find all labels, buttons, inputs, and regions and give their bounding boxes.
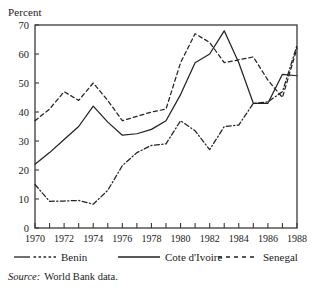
line-chart-plot: 010203040506070 197019721974197619781980… <box>0 0 316 249</box>
x-tick-label: 1980 <box>171 233 191 244</box>
y-tick-label: 30 <box>19 136 30 147</box>
x-tick-label: 1976 <box>112 233 132 244</box>
source-prefix: Source: <box>8 271 40 282</box>
series-line-senegal <box>35 34 297 121</box>
chart-legend: Benin Cote d'Ivoire Senegal <box>0 249 316 271</box>
y-tick-label: 50 <box>19 78 30 89</box>
legend-item-benin: Benin <box>14 249 87 265</box>
x-tick-label: 1974 <box>83 233 103 244</box>
figure-container: Percent 010203040506070 1970197219741976… <box>0 0 316 291</box>
x-tick-label: 1982 <box>200 233 220 244</box>
source-note: Source:World Bank data. <box>8 271 118 282</box>
y-tick-label: 10 <box>19 194 30 205</box>
legend-swatch-senegal <box>216 251 258 263</box>
legend-label-senegal: Senegal <box>263 251 298 263</box>
x-tick-label: 1972 <box>54 233 74 244</box>
x-tick-label: 1988 <box>287 233 307 244</box>
y-tick-label: 40 <box>19 107 30 118</box>
x-tick-label: 1984 <box>229 233 249 244</box>
legend-label-cote-divoire: Cote d'Ivoire <box>165 251 222 263</box>
legend-item-senegal: Senegal <box>216 249 298 265</box>
y-tick-label: 70 <box>19 20 30 31</box>
y-tick-label: 20 <box>19 165 30 176</box>
x-tick-label: 1978 <box>141 233 161 244</box>
legend-swatch-benin <box>14 251 56 263</box>
legend-swatch-cote-divoire <box>118 251 160 263</box>
x-tick-label: 1970 <box>25 233 45 244</box>
x-axis-ticks <box>35 223 297 228</box>
y-axis-tick-labels: 010203040506070 <box>19 20 30 234</box>
y-tick-label: 0 <box>24 223 29 234</box>
x-axis-tick-labels: 1970197219741976197819801982198419861988 <box>25 233 307 244</box>
legend-item-cote-divoire: Cote d'Ivoire <box>118 249 222 265</box>
x-tick-label: 1986 <box>258 233 278 244</box>
source-text: World Bank data. <box>44 271 118 282</box>
data-series-group <box>35 31 297 204</box>
y-tick-label: 60 <box>19 49 30 60</box>
plot-frame <box>35 25 297 228</box>
legend-label-benin: Benin <box>61 251 87 263</box>
series-line-benin <box>35 45 297 204</box>
